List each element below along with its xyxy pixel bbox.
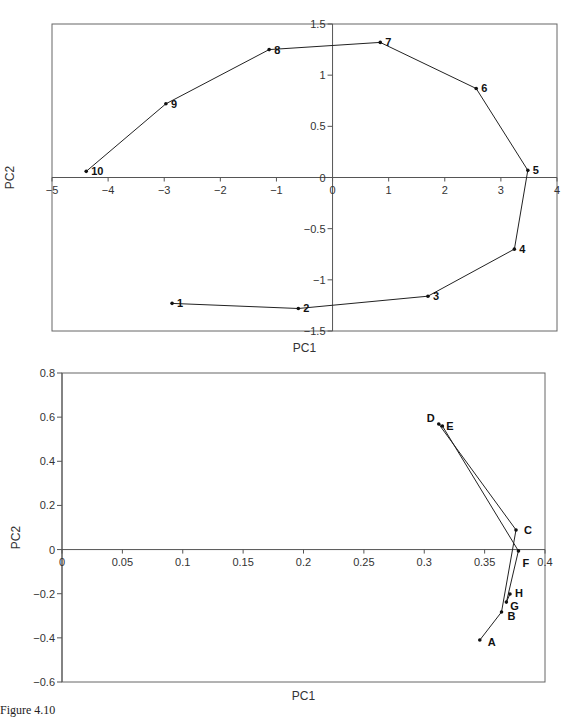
x-tick-label: −4 xyxy=(102,184,115,196)
point-label: D xyxy=(427,412,435,424)
data-point xyxy=(426,294,430,298)
x-tick-label: 2 xyxy=(442,184,448,196)
point-label: E xyxy=(446,420,453,432)
point-label: C xyxy=(524,524,532,536)
point-label: 5 xyxy=(533,164,539,176)
x-axis-title: PC1 xyxy=(293,341,317,355)
data-point xyxy=(517,549,521,553)
data-point xyxy=(508,592,512,596)
x-tick-label: 0 xyxy=(329,184,335,196)
x-tick-label: −5 xyxy=(46,184,59,196)
y-tick-label: 0.8 xyxy=(40,367,55,379)
x-tick-label: 4 xyxy=(554,184,560,196)
figure-charts: −5−4−3−2−1012341.510.50−0.5−1−1.5PC1PC21… xyxy=(0,0,575,717)
point-label: H xyxy=(515,587,523,599)
y-tick-label: −1 xyxy=(313,274,326,286)
point-label: 2 xyxy=(303,302,309,314)
x-tick-label: −2 xyxy=(214,184,227,196)
point-label: A xyxy=(488,636,496,648)
point-label: 1 xyxy=(177,297,183,309)
point-label: 6 xyxy=(481,82,487,94)
y-tick-label: 1 xyxy=(319,69,325,81)
point-label: 7 xyxy=(385,36,391,48)
point-label: 3 xyxy=(433,290,439,302)
y-tick-label: −0.4 xyxy=(33,632,55,644)
data-point xyxy=(478,638,482,642)
y-tick-label: 0.4 xyxy=(40,455,55,467)
x-tick-label: −1 xyxy=(270,184,283,196)
trajectory-line xyxy=(86,42,528,308)
point-label: 10 xyxy=(91,165,103,177)
x-tick-label: 0.05 xyxy=(112,556,133,568)
data-point xyxy=(378,41,382,45)
y-axis-title: PC2 xyxy=(9,526,23,550)
data-point xyxy=(437,422,441,426)
y-axis-title: PC2 xyxy=(3,166,17,190)
x-tick-label: 0.2 xyxy=(296,556,311,568)
y-tick-label: 1.5 xyxy=(310,18,325,30)
x-tick-label: 0.25 xyxy=(353,556,374,568)
x-tick-label: 1 xyxy=(386,184,392,196)
data-point xyxy=(164,102,168,106)
point-label: 8 xyxy=(274,44,280,56)
data-point xyxy=(514,528,518,532)
y-tick-label: 0 xyxy=(49,544,55,556)
data-point xyxy=(267,48,271,52)
data-point xyxy=(526,169,530,173)
x-tick-label: 0.1 xyxy=(175,556,190,568)
y-tick-label: 0 xyxy=(319,172,325,184)
figure-caption: Figure 4.10 xyxy=(0,703,55,717)
trajectory-line xyxy=(439,424,519,640)
y-tick-label: −1.5 xyxy=(304,325,326,337)
y-tick-label: −0.6 xyxy=(33,676,55,688)
y-tick-label: 0.2 xyxy=(40,499,55,511)
x-tick-label: 0 xyxy=(59,556,65,568)
data-point xyxy=(474,87,478,91)
x-axis-title: PC1 xyxy=(292,689,316,703)
x-tick-label: 0.4 xyxy=(537,556,552,568)
plot-frame xyxy=(62,373,545,682)
data-point xyxy=(500,610,504,614)
x-tick-label: 0.35 xyxy=(474,556,495,568)
data-point xyxy=(84,170,88,174)
y-tick-label: −0.2 xyxy=(33,588,55,600)
data-point xyxy=(505,600,509,604)
data-point xyxy=(297,307,301,311)
point-label: G xyxy=(510,600,519,612)
y-tick-label: 0.5 xyxy=(310,120,325,132)
data-point xyxy=(441,424,445,428)
y-tick-label: −0.5 xyxy=(304,223,326,235)
x-tick-label: −3 xyxy=(158,184,171,196)
data-point xyxy=(513,247,517,251)
x-tick-label: 0.15 xyxy=(232,556,253,568)
y-tick-label: 0.6 xyxy=(40,411,55,423)
point-label: 9 xyxy=(171,98,177,110)
x-tick-label: 0.3 xyxy=(417,556,432,568)
point-label: F xyxy=(522,557,529,569)
point-label: 4 xyxy=(519,243,526,255)
data-point xyxy=(170,302,174,306)
x-tick-label: 3 xyxy=(498,184,504,196)
